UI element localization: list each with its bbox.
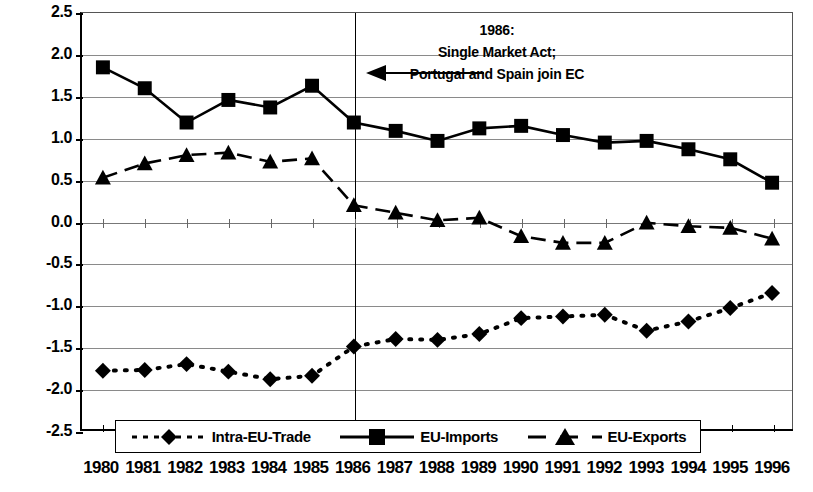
y-tick-label: 2.5 bbox=[28, 3, 72, 21]
legend-label-eu-exports: EU-Exports bbox=[608, 428, 687, 445]
data-point bbox=[764, 285, 780, 301]
legend-item-eu-exports[interactable]: EU-Exports bbox=[526, 427, 687, 447]
data-point bbox=[597, 307, 613, 323]
data-point bbox=[346, 197, 362, 212]
x-tick-label: 1994 bbox=[670, 458, 705, 478]
data-point bbox=[347, 116, 361, 130]
y-tick-label: 2.0 bbox=[28, 45, 72, 63]
x-tick-label: 1996 bbox=[754, 458, 789, 478]
y-tick-label: 1.0 bbox=[28, 129, 72, 147]
data-point bbox=[513, 228, 529, 243]
y-tick-label: 0.5 bbox=[28, 171, 72, 189]
x-tick-label: 1990 bbox=[503, 458, 538, 478]
data-point bbox=[220, 364, 236, 380]
data-point bbox=[681, 142, 695, 156]
series-eu-exports bbox=[95, 145, 780, 250]
annotation-line-2: Single Market Act; bbox=[438, 44, 556, 60]
data-point bbox=[388, 205, 404, 220]
y-tick-label: -1.0 bbox=[28, 296, 72, 314]
y-tick-label: 0.0 bbox=[28, 213, 72, 231]
data-point bbox=[722, 220, 738, 235]
legend-item-intra-eu-trade[interactable]: Intra-EU-Trade bbox=[130, 427, 311, 447]
x-tick-label: 1980 bbox=[83, 458, 118, 478]
chart-container: Percent (estimated from gravity model) 2… bbox=[0, 0, 813, 492]
data-point bbox=[221, 93, 235, 107]
data-point bbox=[723, 152, 737, 166]
chart-legend: Intra-EU-Trade EU-Imports EU-Exports bbox=[115, 420, 701, 453]
x-tick-label: 1981 bbox=[125, 458, 160, 478]
data-point bbox=[138, 81, 152, 95]
x-tick-label: 1993 bbox=[628, 458, 663, 478]
x-tick-label: 1988 bbox=[419, 458, 454, 478]
x-tick-label: 1983 bbox=[209, 458, 244, 478]
x-tick-label: 1986 bbox=[335, 458, 370, 478]
data-point bbox=[765, 176, 779, 190]
data-point bbox=[513, 310, 529, 326]
y-tick-label: -0.5 bbox=[28, 254, 72, 272]
data-point bbox=[262, 371, 278, 387]
x-tick-label: 1991 bbox=[545, 458, 580, 478]
data-point bbox=[180, 116, 194, 130]
data-point bbox=[431, 134, 445, 148]
data-point bbox=[388, 331, 404, 347]
series-line bbox=[103, 153, 772, 243]
y-tick-mark bbox=[76, 432, 83, 434]
data-point bbox=[597, 235, 613, 250]
data-point bbox=[556, 128, 570, 142]
data-point bbox=[514, 119, 528, 133]
series-line bbox=[103, 67, 772, 182]
y-tick-label: -2.0 bbox=[28, 380, 72, 398]
series-intra-eu-trade bbox=[95, 285, 780, 387]
legend-label-eu-imports: EU-Imports bbox=[420, 428, 498, 445]
x-tick-label: 1985 bbox=[293, 458, 328, 478]
legend-item-eu-imports[interactable]: EU-Imports bbox=[338, 427, 498, 447]
data-point bbox=[305, 79, 319, 93]
data-point bbox=[179, 356, 195, 372]
x-tick-label: 1982 bbox=[167, 458, 202, 478]
y-tick-label: -2.5 bbox=[28, 422, 72, 440]
data-point bbox=[471, 326, 487, 342]
data-point bbox=[263, 100, 277, 114]
data-point bbox=[137, 362, 153, 378]
data-point bbox=[680, 314, 696, 330]
data-point bbox=[95, 363, 111, 379]
x-tick-label: 1984 bbox=[251, 458, 286, 478]
data-point bbox=[389, 124, 403, 138]
data-point bbox=[555, 308, 571, 324]
legend-marker-square-icon bbox=[338, 427, 416, 447]
data-point bbox=[96, 60, 110, 74]
data-point bbox=[598, 136, 612, 150]
data-point bbox=[640, 134, 654, 148]
y-tick-label: 1.5 bbox=[28, 87, 72, 105]
x-tick-label: 1989 bbox=[461, 458, 496, 478]
x-tick-label: 1987 bbox=[377, 458, 412, 478]
legend-label-intra-eu-trade: Intra-EU-Trade bbox=[212, 428, 311, 445]
annotation-line-1: 1986: bbox=[480, 22, 515, 38]
legend-marker-triangle-icon bbox=[526, 427, 604, 447]
legend-marker-diamond-icon bbox=[130, 427, 208, 447]
annotation-arrow-icon bbox=[366, 62, 486, 84]
data-point bbox=[722, 300, 738, 316]
x-tick-label: 1992 bbox=[587, 458, 622, 478]
x-tick-label: 1995 bbox=[712, 458, 747, 478]
y-tick-label: -1.5 bbox=[28, 338, 72, 356]
data-point bbox=[472, 121, 486, 135]
data-point bbox=[639, 323, 655, 339]
data-point bbox=[430, 332, 446, 348]
